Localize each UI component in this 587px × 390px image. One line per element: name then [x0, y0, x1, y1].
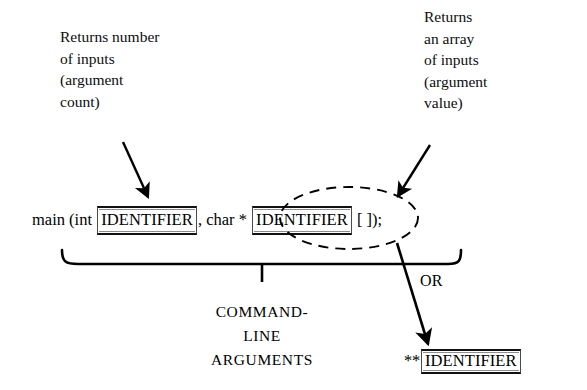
arrow-left-note-to-argc	[123, 142, 148, 197]
code-line: main (int IDENTIFIER , char * IDENTIFIER…	[32, 206, 382, 235]
double-star-prefix: **	[404, 351, 420, 371]
code-token-prefix: main (int	[32, 208, 96, 232]
arrow-argv-to-alternative	[397, 243, 428, 344]
brace-caption-line-3: ARGUMENTS	[162, 348, 362, 372]
code-token-star: *	[239, 208, 251, 232]
or-label: OR	[420, 272, 443, 290]
brace-caption: COMMAND- LINE ARGUMENTS	[162, 300, 362, 372]
command-line-arguments-underbrace	[62, 250, 461, 264]
brace-caption-line-2: LINE	[162, 324, 362, 348]
diagram-canvas: Returns number of inputs (argument count…	[0, 0, 587, 390]
code-token-middle: , char	[198, 208, 239, 232]
code-token-suffix: [ ]);	[353, 208, 382, 232]
annotation-note-right: Returns an array of inputs (argument val…	[424, 6, 487, 114]
arrow-right-note-to-argv	[398, 145, 430, 196]
argc-identifier-box: IDENTIFIER	[97, 206, 197, 235]
brace-caption-line-1: COMMAND-	[162, 300, 362, 324]
annotation-note-left: Returns number of inputs (argument count…	[60, 26, 159, 112]
argv-identifier-box: IDENTIFIER	[252, 206, 352, 235]
alternative-identifier-box: IDENTIFIER	[421, 349, 521, 374]
alternative-expression: ** IDENTIFIER	[404, 349, 522, 374]
